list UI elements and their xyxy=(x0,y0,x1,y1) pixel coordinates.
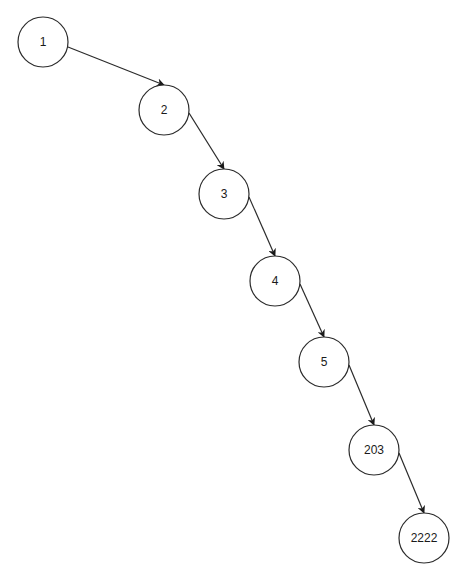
edge-4-to-5 xyxy=(300,284,324,337)
edge-5-to-203 xyxy=(349,365,374,425)
edge-203-to-2222 xyxy=(399,453,424,513)
node-2: 2 xyxy=(139,85,189,135)
node-label: 2 xyxy=(161,103,168,117)
node-203: 203 xyxy=(349,425,399,475)
edge-3-to-4 xyxy=(249,197,275,256)
nodes-group: 123452032222 xyxy=(18,17,449,563)
node-5: 5 xyxy=(299,337,349,387)
edge-1-to-2 xyxy=(68,47,164,85)
edge-2-to-3 xyxy=(189,113,224,169)
node-label: 4 xyxy=(272,274,279,288)
node-label: 2222 xyxy=(411,531,438,545)
tree-diagram: 123452032222 xyxy=(0,0,468,580)
node-label: 203 xyxy=(364,443,384,457)
node-label: 1 xyxy=(40,35,47,49)
node-label: 3 xyxy=(221,187,228,201)
node-1: 1 xyxy=(18,17,68,67)
node-label: 5 xyxy=(321,355,328,369)
node-4: 4 xyxy=(250,256,300,306)
node-3: 3 xyxy=(199,169,249,219)
node-2222: 2222 xyxy=(399,513,449,563)
